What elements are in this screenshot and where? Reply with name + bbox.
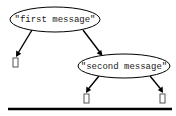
edge-line [88, 76, 100, 90]
edge-first-to-leaf1 [16, 30, 32, 57]
edge-first-to-second [83, 30, 103, 56]
message-tree-diagram: "first message" "second message" [0, 0, 176, 116]
edge-line [18, 30, 33, 54]
leaf-node-box-3[interactable] [160, 94, 165, 103]
leaf-node-box-1[interactable] [13, 58, 18, 67]
edge-line [150, 76, 162, 90]
edge-second-to-leaf2 [86, 76, 99, 93]
edge-line [83, 30, 101, 53]
node-first-message[interactable]: "first message" [10, 7, 100, 32]
node-label: "second message" [81, 62, 167, 72]
diagram-canvas: "first message" "second message" [0, 0, 176, 116]
edge-second-to-leaf3 [150, 76, 163, 93]
leaf-node-box-2[interactable] [84, 94, 89, 103]
node-second-message[interactable]: "second message" [78, 54, 170, 78]
node-label: "first message" [14, 15, 95, 25]
